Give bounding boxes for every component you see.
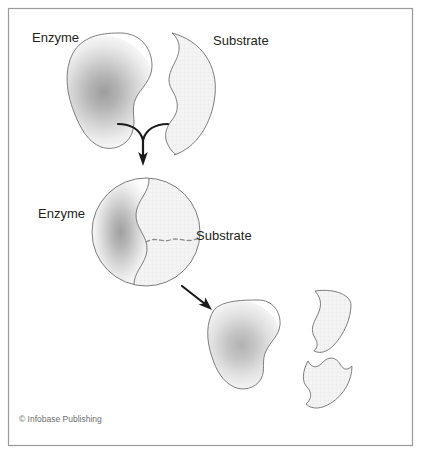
enzyme-substrate-diagram: Enzyme Substrate Enzyme: [0, 0, 422, 455]
diagram-canvas: Enzyme Substrate Enzyme: [0, 0, 422, 455]
label-substrate-complex: Substrate: [196, 228, 252, 243]
substrate-shape-top: [166, 33, 216, 155]
product-fragment-lower: [303, 358, 352, 408]
enzyme-shape-top: [52, 28, 165, 158]
label-enzyme-complex: Enzyme: [38, 206, 85, 221]
stage-1-separate: Enzyme Substrate: [32, 28, 269, 158]
label-enzyme-top: Enzyme: [32, 30, 79, 45]
product-fragment-upper: [312, 290, 351, 352]
stage-3-products: [199, 290, 352, 408]
stage-2-complex: Enzyme Substrate: [38, 178, 252, 288]
enzyme-shape-released: [199, 294, 292, 396]
products-arrow: [182, 286, 212, 310]
copyright-credit: © Infobase Publishing: [19, 414, 102, 424]
label-substrate-top: Substrate: [213, 33, 269, 48]
